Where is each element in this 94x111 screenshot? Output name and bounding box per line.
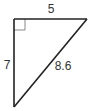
right-triangle-diagram: 5 7 8.6	[0, 0, 94, 111]
left-side-label: 7	[4, 58, 11, 72]
hypotenuse-label: 8.6	[55, 59, 72, 73]
right-angle-marker	[14, 19, 25, 30]
hypotenuse-side	[14, 19, 87, 107]
top-side-label: 5	[48, 2, 55, 16]
